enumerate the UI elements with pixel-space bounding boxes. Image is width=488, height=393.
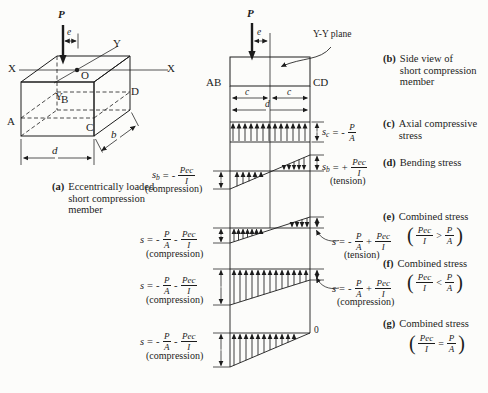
condition-e: ( PecI > PA )	[407, 225, 463, 247]
label-d-box: d	[52, 145, 58, 156]
note-combined-f-right: (compression)	[337, 297, 394, 307]
box-load-arrow	[59, 25, 66, 65]
centroid-dot	[75, 68, 79, 72]
label-yy-plane: Y-Y plane	[313, 29, 351, 39]
note-combined-f-left: (compression)	[146, 295, 203, 305]
side-label-g: (g) Combined stress	[383, 318, 469, 330]
label-e-box: e	[67, 27, 71, 37]
caption-tag: (a)	[52, 181, 64, 193]
box-caption: (a) Eccentrically loaded short compressi…	[52, 181, 154, 216]
label-AB: AB	[206, 77, 221, 88]
side-label-b: (b) Side view of short compression membe…	[383, 53, 477, 88]
label-O: O	[81, 70, 89, 81]
label-P-box: P	[58, 9, 65, 20]
caption-line: Eccentrically loaded	[68, 181, 154, 193]
label-c-left: c	[245, 87, 249, 97]
note-combined-e-right: (tension)	[344, 250, 380, 260]
combined-stress-diagram-e	[213, 217, 339, 243]
note-bending-left: (compression)	[145, 184, 202, 194]
side-label-d: (d) Bending stress	[383, 157, 461, 169]
side-label-e: (e) Combined stress	[383, 211, 468, 223]
member-outline	[230, 33, 310, 367]
note-combined-e-left: (compression)	[146, 249, 203, 259]
formula-axial-stress: sc = - PA	[322, 122, 356, 144]
label-CD: CD	[313, 77, 328, 88]
label-d-column: d	[265, 99, 270, 109]
label-X-right: X	[167, 63, 175, 74]
label-X-left: X	[8, 63, 16, 74]
label-D: D	[131, 86, 139, 97]
label-b-box: b	[111, 129, 117, 140]
box-axes	[19, 46, 168, 83]
box-dimensions	[21, 34, 139, 166]
label-c-right: c	[287, 87, 291, 97]
label-B: B	[61, 94, 68, 105]
label-zero: 0	[314, 325, 319, 335]
label-C: C	[86, 122, 93, 133]
label-A: A	[7, 116, 15, 127]
label-Y-upper: Y	[113, 38, 121, 49]
note-combined-g-left: (compression)	[146, 351, 203, 361]
condition-f: ( PecI < PA )	[407, 272, 463, 294]
caption-line: member	[68, 204, 154, 216]
side-label-f: (f) Combined stress	[383, 258, 467, 270]
note-bending-right: (tension)	[330, 176, 366, 186]
figure-eccentric-loading: P e X X Y Y O A B C D d b (a) Eccentrica…	[0, 0, 488, 393]
label-P-column: P	[247, 8, 254, 19]
column-load-arrow	[248, 23, 255, 61]
combined-stress-diagram-f	[213, 269, 339, 305]
side-label-c: (c) Axial compressive stress	[383, 118, 477, 141]
label-e-column: e	[257, 27, 261, 37]
condition-g: ( PecI = PA )	[409, 333, 465, 355]
combined-stress-diagram-g	[213, 333, 310, 367]
caption-line: short compression	[68, 193, 154, 205]
